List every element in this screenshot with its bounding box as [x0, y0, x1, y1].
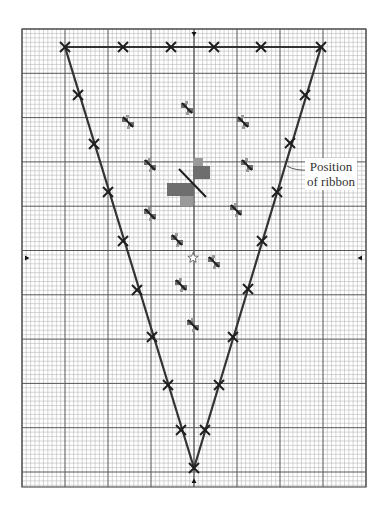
small-bow-icon	[241, 158, 253, 172]
small-bow-icon	[208, 255, 220, 269]
cross-stitch-chart	[0, 0, 386, 521]
annotation-line-2: of ribbon	[307, 174, 355, 189]
annotation-line-1: Position	[307, 159, 355, 174]
ribbon-block	[193, 158, 203, 166]
ribbon-block	[180, 196, 193, 206]
top-center-arrow-icon	[192, 32, 197, 37]
left-center-arrow-icon	[25, 256, 30, 261]
small-bow-icon	[144, 158, 156, 172]
ribbon-annotation: Position of ribbon	[305, 158, 357, 190]
small-bow-icon	[144, 207, 156, 221]
ribbon-block	[167, 183, 194, 196]
center-star-icon	[188, 253, 198, 263]
ribbon-block	[193, 166, 210, 179]
central-ribbon-bow	[167, 158, 210, 206]
right-center-arrow-icon	[358, 256, 363, 261]
small-bow-icon	[187, 318, 199, 332]
